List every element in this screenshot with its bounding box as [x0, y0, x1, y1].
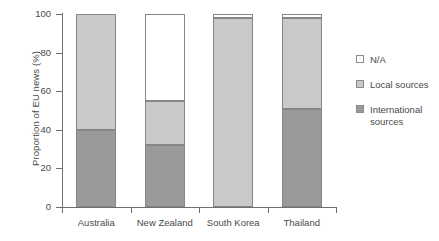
y-tick-label-20: 20	[40, 162, 51, 173]
x-tick-label-new-zealand: New Zealand	[137, 217, 193, 228]
legend-item-international-sources[interactable]: International sources	[356, 104, 439, 128]
x-tick-1	[131, 207, 132, 213]
y-tick-label-0: 0	[46, 201, 51, 212]
x-tick-4	[336, 207, 337, 213]
y-tick-label-60: 60	[40, 85, 51, 96]
legend-item-na[interactable]: N/A	[356, 54, 439, 66]
y-axis-title: Proportion of EU news (%)	[30, 19, 41, 199]
legend-label-international-sources: International sources	[370, 104, 422, 127]
bar-segment-na[interactable]	[145, 14, 185, 101]
x-tick-label-thailand: Thailand	[284, 217, 320, 228]
x-tick-label-australia: Australia	[78, 217, 115, 228]
legend-swatch-na-icon	[356, 55, 364, 63]
stacked-bar-chart: Proportion of EU news (%) 020406080100 A…	[0, 0, 439, 241]
plot-area	[62, 14, 336, 207]
bar-segment-international-sources[interactable]	[145, 145, 185, 207]
y-tick-20: 20	[56, 168, 62, 169]
x-tick-3	[268, 207, 269, 213]
y-tick-40: 40	[56, 130, 62, 131]
bar-segment-local-sources[interactable]	[213, 18, 253, 207]
y-tick-label-100: 100	[35, 8, 51, 19]
legend-label-na: N/A	[370, 54, 386, 65]
legend-label-local-sources: Local sources	[370, 79, 429, 90]
bar-australia[interactable]	[76, 14, 116, 207]
bar-segment-na[interactable]	[282, 14, 322, 18]
chart-legend: N/A Local sources International sources	[356, 54, 439, 141]
bar-segment-international-sources[interactable]	[282, 109, 322, 207]
bar-segment-na[interactable]	[213, 14, 253, 18]
legend-swatch-international-sources-icon	[356, 105, 364, 113]
legend-item-local-sources[interactable]: Local sources	[356, 79, 439, 91]
bar-south-korea[interactable]	[213, 14, 253, 207]
bar-segment-local-sources[interactable]	[145, 101, 185, 145]
bar-new-zealand[interactable]	[145, 14, 185, 207]
y-tick-80: 80	[56, 53, 62, 54]
y-tick-label-80: 80	[40, 47, 51, 58]
y-tick-60: 60	[56, 91, 62, 92]
bar-thailand[interactable]	[282, 14, 322, 207]
bar-segment-local-sources[interactable]	[282, 18, 322, 109]
y-tick-100: 100	[56, 14, 62, 15]
x-tick-label-south-korea: South Korea	[207, 217, 260, 228]
legend-swatch-local-sources-icon	[356, 80, 364, 88]
y-tick-label-40: 40	[40, 124, 51, 135]
bar-segment-international-sources[interactable]	[76, 130, 116, 207]
x-tick-0	[62, 207, 63, 213]
bar-segment-local-sources[interactable]	[76, 14, 116, 130]
x-tick-2	[199, 207, 200, 213]
